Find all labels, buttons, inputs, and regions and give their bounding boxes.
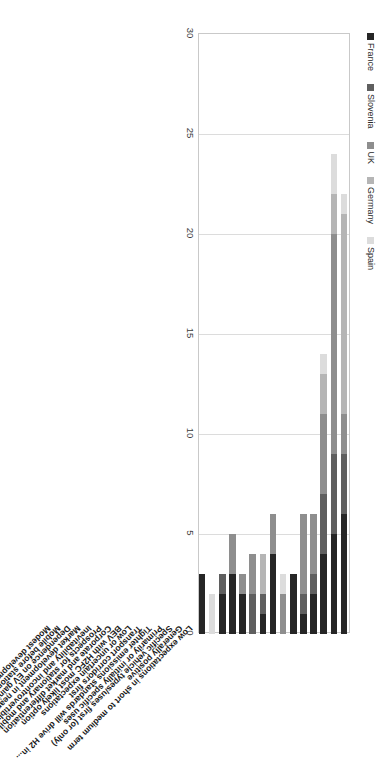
bar-segment xyxy=(229,574,236,634)
bar-segment xyxy=(290,574,297,634)
bar-segment xyxy=(260,554,267,594)
bar-row xyxy=(219,574,226,634)
bar-row xyxy=(300,514,307,634)
bar-row xyxy=(331,154,338,634)
bar-segment xyxy=(341,454,348,514)
bar-segment xyxy=(320,354,327,374)
bar-segment xyxy=(239,594,246,634)
legend-label: Germany xyxy=(366,187,376,224)
bar-segment xyxy=(280,594,287,634)
bar-row xyxy=(199,574,206,634)
bar-segment xyxy=(229,534,236,574)
bar-segment xyxy=(249,594,256,634)
bar-segment xyxy=(310,514,317,574)
bar-segment xyxy=(219,594,226,634)
bar-segment xyxy=(270,514,277,554)
bar-row xyxy=(310,514,317,634)
bar-segment xyxy=(341,214,348,414)
bar-segment xyxy=(239,574,246,594)
bar-row xyxy=(341,194,348,634)
bar-segment xyxy=(341,514,348,634)
legend-label: Spain xyxy=(366,247,376,270)
bar-segment xyxy=(249,554,256,594)
bar-segment xyxy=(300,514,307,594)
legend-swatch-icon xyxy=(368,177,375,184)
legend-label: France xyxy=(366,43,376,71)
bar-segment xyxy=(331,234,338,454)
bar-segment xyxy=(331,154,338,194)
bar-segment xyxy=(260,614,267,634)
bar-segment xyxy=(300,614,307,634)
bar-row xyxy=(290,574,297,634)
chart-area: 051015202530 xyxy=(198,33,350,633)
bar-segment xyxy=(331,534,338,634)
legend-item[interactable]: Slovenia xyxy=(366,84,376,129)
bar-segment xyxy=(341,194,348,214)
bar-segment xyxy=(270,554,277,634)
chart-legend: FranceSloveniaUKGermanySpain xyxy=(366,33,376,270)
category-axis-labels: Low expectations in short to medium term… xyxy=(6,33,196,633)
bar-segment xyxy=(341,414,348,454)
bar-segment xyxy=(280,574,287,594)
bar-segment xyxy=(260,594,267,614)
bar-segment xyxy=(310,574,317,594)
bar-segment xyxy=(331,194,338,234)
bar-segment xyxy=(300,594,307,614)
legend-swatch-icon xyxy=(368,33,375,40)
bar-row xyxy=(260,554,267,634)
bar-segment xyxy=(331,454,338,534)
legend-swatch-icon xyxy=(368,142,375,149)
bar-row xyxy=(229,534,236,634)
bar-segment xyxy=(219,574,226,594)
legend-label: Slovenia xyxy=(366,94,376,129)
bar-row xyxy=(320,354,327,634)
legend-swatch-icon xyxy=(368,237,375,244)
bar-segment xyxy=(320,374,327,414)
bar-row xyxy=(280,574,287,634)
bar-segment xyxy=(310,594,317,634)
bar-segment xyxy=(209,594,216,634)
legend-item[interactable]: France xyxy=(366,33,376,71)
bar-row xyxy=(249,554,256,634)
legend-item[interactable]: UK xyxy=(366,142,376,165)
bar-row xyxy=(239,574,246,634)
bar-segment xyxy=(320,494,327,554)
legend-item[interactable]: Germany xyxy=(366,177,376,224)
bar-row xyxy=(209,594,216,634)
bar-segment xyxy=(199,574,206,634)
bar-row xyxy=(270,514,277,634)
legend-item[interactable]: Spain xyxy=(366,237,376,270)
plot-frame xyxy=(198,33,350,633)
bar-segment xyxy=(320,554,327,634)
bar-series-container xyxy=(199,34,349,632)
legend-label: UK xyxy=(366,152,376,165)
bar-segment xyxy=(320,414,327,494)
legend-swatch-icon xyxy=(368,84,375,91)
